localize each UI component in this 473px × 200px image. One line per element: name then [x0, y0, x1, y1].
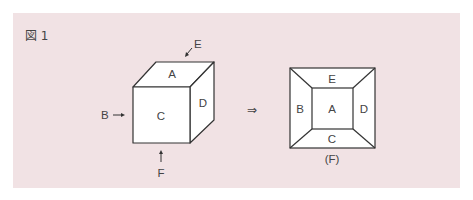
view-caption: (F): [325, 153, 340, 165]
cube-face-right-label: D: [199, 97, 207, 109]
cube-face-top-label: A: [168, 68, 176, 80]
figure-diagram: A C D B E F ⇒ E B A D C (F): [0, 0, 473, 200]
cube-face-front-label: C: [157, 110, 165, 122]
view-bottom-label: C: [328, 133, 336, 145]
pointer-e-label: E: [194, 38, 202, 50]
view-center-label: A: [328, 103, 336, 115]
view-left-label: B: [296, 103, 304, 115]
arrow-down-left-icon: [185, 48, 192, 57]
pointer-b-label: B: [101, 109, 109, 121]
implies-arrow-icon: ⇒: [247, 103, 257, 117]
arrow-up-icon: [159, 150, 163, 162]
arrow-right-icon: [113, 113, 125, 117]
view-top-label: E: [328, 73, 336, 85]
pointer-f-label: F: [157, 167, 164, 179]
view-right-label: D: [360, 103, 368, 115]
